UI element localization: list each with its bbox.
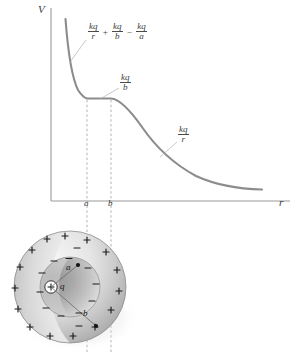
sphere-outer-radius-label: b bbox=[83, 308, 88, 318]
operator-minus: − bbox=[125, 27, 134, 37]
x-axis-label: r bbox=[279, 196, 283, 208]
formula-region-outside-sphere: kq r bbox=[178, 125, 189, 145]
potential-figure bbox=[0, 0, 299, 353]
sphere-charge-label: q bbox=[60, 281, 65, 291]
operator-plus: + bbox=[101, 27, 110, 37]
tick-label-a: a bbox=[84, 198, 89, 208]
fraction-kq-over-r-far: kq r bbox=[178, 125, 189, 145]
formula-region-inside-conductor: kq b bbox=[120, 73, 131, 93]
fraction-kq-over-r: kq r bbox=[88, 22, 99, 42]
formula-region-inside-cavity: kq r + kq b − kq a bbox=[88, 22, 147, 42]
fraction-kq-over-b-plateau: kq b bbox=[120, 73, 131, 93]
sphere-inner-radius-label: a bbox=[66, 262, 71, 272]
radius-endpoint-a bbox=[76, 263, 80, 267]
y-axis-label: V bbox=[38, 3, 45, 15]
tick-label-b: b bbox=[108, 198, 113, 208]
sphere-front-half bbox=[14, 231, 126, 343]
fraction-kq-over-b: kq b bbox=[112, 22, 123, 42]
fraction-kq-over-a: kq a bbox=[136, 22, 147, 42]
